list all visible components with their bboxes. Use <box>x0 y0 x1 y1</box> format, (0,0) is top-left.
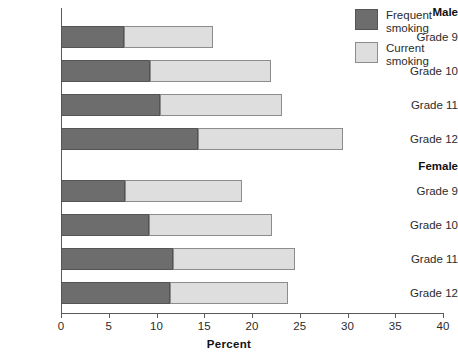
bar-segment-current-smoking <box>198 128 343 150</box>
bar-segment-frequent-smoking <box>61 282 170 304</box>
x-axis-tick-label: 0 <box>46 320 76 333</box>
x-axis-title: Percent <box>0 338 458 350</box>
bar-row <box>61 248 295 270</box>
bar-segment-current-smoking <box>170 282 288 304</box>
x-axis-tick <box>252 313 253 318</box>
x-axis-tick-label: 10 <box>142 320 172 333</box>
x-axis-tick <box>443 313 444 318</box>
bar-segment-frequent-smoking <box>61 94 160 116</box>
bar-row <box>61 282 288 304</box>
x-axis-tick <box>61 313 62 318</box>
x-axis-tick <box>348 313 349 318</box>
x-axis-tick-label: 5 <box>94 320 124 333</box>
bar-segment-current-smoking <box>173 248 295 270</box>
bar-segment-frequent-smoking <box>61 60 150 82</box>
x-axis-tick-label: 15 <box>189 320 219 333</box>
bar-segment-current-smoking <box>150 60 271 82</box>
bar-row <box>61 60 271 82</box>
bar-segment-frequent-smoking <box>61 128 198 150</box>
x-axis-tick <box>395 313 396 318</box>
bar-row <box>61 214 272 236</box>
bar-segment-frequent-smoking <box>61 180 125 202</box>
x-axis-tick <box>204 313 205 318</box>
current-swatch <box>355 42 378 63</box>
legend-label: Frequent smoking <box>386 9 432 34</box>
bar-row <box>61 128 343 150</box>
legend: Frequent smokingCurrent smoking <box>355 9 455 75</box>
bar-row <box>61 94 282 116</box>
x-axis-tick-label: 25 <box>285 320 315 333</box>
bar-segment-frequent-smoking <box>61 214 149 236</box>
bar-segment-current-smoking <box>124 26 213 48</box>
x-axis-tick <box>109 313 110 318</box>
x-axis-tick-label: 35 <box>380 320 410 333</box>
bar-row <box>61 26 213 48</box>
x-axis-tick <box>157 313 158 318</box>
x-axis-tick-label: 30 <box>333 320 363 333</box>
stacked-bar-chart: MaleGrade 9Grade 10Grade 11Grade 12Femal… <box>0 0 458 363</box>
legend-entry: Current smoking <box>355 42 455 67</box>
x-axis-tick-label: 20 <box>237 320 267 333</box>
bar-segment-frequent-smoking <box>61 248 173 270</box>
frequent-swatch <box>355 9 378 30</box>
bar-segment-current-smoking <box>149 214 272 236</box>
bar-segment-current-smoking <box>125 180 242 202</box>
bar-segment-current-smoking <box>160 94 281 116</box>
x-axis-tick-label: 40 <box>428 320 458 333</box>
x-axis-tick <box>300 313 301 318</box>
bar-row <box>61 180 242 202</box>
legend-label: Current smoking <box>386 42 429 67</box>
bar-segment-frequent-smoking <box>61 26 124 48</box>
legend-entry: Frequent smoking <box>355 9 455 34</box>
